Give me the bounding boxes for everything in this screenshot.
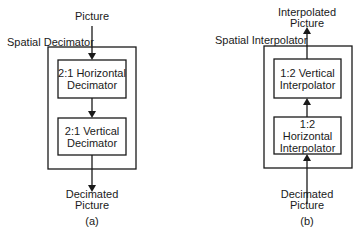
arrow-up-icon	[303, 98, 311, 105]
block-label: 2:1 Vertical Decimator	[58, 118, 126, 155]
output-label-line2: Picture	[52, 199, 132, 211]
container-label: Spatial Decimator	[7, 36, 94, 48]
arrow-up-icon	[303, 154, 311, 161]
block-label-line1: 1:2 Vertical	[280, 67, 334, 79]
input-label-line2: Picture	[267, 199, 347, 211]
block-label: 1:2 Horizontal Interpolator	[274, 117, 341, 154]
block-label-line2: Interpolator	[280, 79, 336, 91]
block-label: 2:1 Horizontal Decimator	[58, 60, 126, 98]
block-label-line2: Interpolator	[280, 142, 336, 154]
container-label: Spatial Interpolator	[215, 34, 307, 46]
arrow-down-icon	[88, 111, 96, 118]
arrow-down-icon	[88, 53, 96, 60]
caption-a: (a)	[72, 215, 112, 227]
caption-b: (b)	[287, 215, 327, 227]
block-label-line2: Decimator	[67, 137, 117, 149]
input-label: Picture	[62, 10, 122, 22]
block-label-line2: Decimator	[67, 79, 117, 91]
output-label-line2: Picture	[267, 17, 347, 29]
block-label-line1: 2:1 Horizontal	[58, 67, 126, 79]
block-label-line1: 2:1 Vertical	[65, 125, 119, 137]
block-label-line1: 1:2 Horizontal	[274, 118, 341, 142]
block-label: 1:2 Vertical Interpolator	[274, 59, 341, 98]
